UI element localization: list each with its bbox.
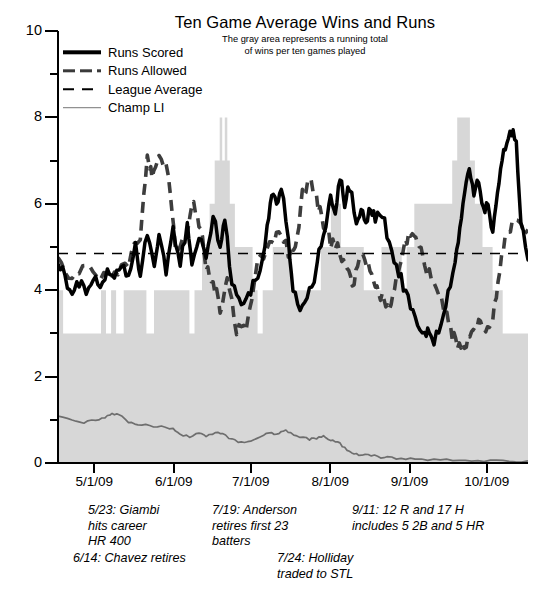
y-tick-minor-5 bbox=[50, 246, 58, 248]
y-tick-minor-7 bbox=[50, 160, 58, 162]
chart-figure: Ten Game Average Wins and Runs The gray … bbox=[0, 0, 538, 612]
legend-label-1: Runs Allowed bbox=[108, 64, 187, 77]
x-tick-2 bbox=[250, 464, 252, 473]
legend-item-league-average[interactable]: League Average bbox=[63, 80, 202, 99]
y-tick-major-6 bbox=[45, 203, 58, 205]
legend-item-runs-allowed[interactable]: Runs Allowed bbox=[63, 62, 202, 81]
legend-label-2: League Average bbox=[108, 83, 202, 96]
y-tick-minor-3 bbox=[50, 332, 58, 334]
y-axis-label-10: 10 bbox=[8, 23, 42, 37]
annotation-3: 7/24: Holliday traded to STL bbox=[277, 551, 353, 582]
chart-legend: Runs ScoredRuns AllowedLeague AverageCha… bbox=[63, 43, 202, 117]
legend-item-runs-scored[interactable]: Runs Scored bbox=[63, 43, 202, 62]
x-tick-5 bbox=[486, 464, 488, 473]
x-axis-label-3: 8/1/09 bbox=[293, 474, 367, 489]
annotation-1: 6/14: Chavez retires bbox=[73, 551, 186, 567]
annotation-4: 9/11: 12 R and 17 H includes 5 2B and 5 … bbox=[352, 503, 484, 534]
x-axis-label-2: 7/1/09 bbox=[214, 474, 288, 489]
x-axis-label-0: 5/1/09 bbox=[57, 474, 131, 489]
legend-label-0: Runs Scored bbox=[108, 46, 183, 59]
legend-label-3: Champ LI bbox=[108, 101, 164, 114]
y-tick-major-8 bbox=[45, 116, 58, 118]
x-axis-label-1: 6/1/09 bbox=[137, 474, 211, 489]
y-axis-label-4: 4 bbox=[8, 282, 42, 296]
legend-swatch-icon-1 bbox=[63, 65, 101, 77]
page-title: Ten Game Average Wins and Runs bbox=[150, 12, 460, 32]
y-tick-minor-1 bbox=[50, 419, 58, 421]
y-tick-major-4 bbox=[45, 289, 58, 291]
annotation-2: 7/19: Anderson retires first 23 batters bbox=[212, 503, 297, 550]
x-tick-4 bbox=[409, 464, 411, 473]
x-tick-1 bbox=[173, 464, 175, 473]
y-tick-major-2 bbox=[45, 376, 58, 378]
y-tick-major-10 bbox=[45, 30, 58, 32]
x-axis-label-4: 9/1/09 bbox=[373, 474, 447, 489]
y-axis-label-8: 8 bbox=[8, 109, 42, 123]
x-tick-3 bbox=[329, 464, 331, 473]
y-axis-label-6: 6 bbox=[8, 196, 42, 210]
y-axis-label-2: 2 bbox=[8, 369, 42, 383]
legend-item-champ-li[interactable]: Champ LI bbox=[63, 99, 202, 118]
x-axis-line bbox=[57, 462, 528, 464]
legend-swatch-icon-0 bbox=[63, 46, 101, 58]
y-tick-minor-9 bbox=[50, 73, 58, 75]
y-axis-label-0: 0 bbox=[8, 455, 42, 469]
x-tick-0 bbox=[93, 464, 95, 473]
y-tick-major-0 bbox=[45, 462, 58, 464]
annotation-0: 5/23: Giambi hits career HR 400 bbox=[88, 503, 159, 550]
x-axis-label-5: 10/1/09 bbox=[450, 474, 524, 489]
legend-swatch-icon-2 bbox=[63, 83, 101, 95]
legend-swatch-icon-3 bbox=[63, 102, 101, 114]
